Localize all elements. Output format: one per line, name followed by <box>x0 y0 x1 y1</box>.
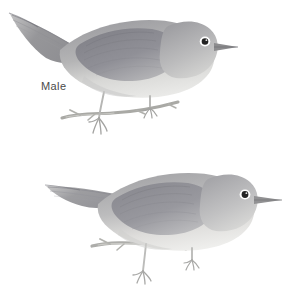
male-bird-drawing <box>0 0 296 144</box>
bird-illustration-plate: Male <box>0 0 296 288</box>
male-foot-front <box>89 118 107 134</box>
female-bird-drawing <box>0 144 296 288</box>
figure-male: Male <box>0 0 296 144</box>
female-eye <box>240 189 251 199</box>
female-bill <box>254 196 282 204</box>
male-eye <box>200 37 211 47</box>
figure-female: Female <box>0 144 296 288</box>
label-male: Male <box>41 80 66 92</box>
male-bill <box>214 43 238 51</box>
female-foot-rear <box>184 260 199 270</box>
female-foot-front <box>133 271 151 284</box>
male-perch-branch <box>62 102 178 120</box>
